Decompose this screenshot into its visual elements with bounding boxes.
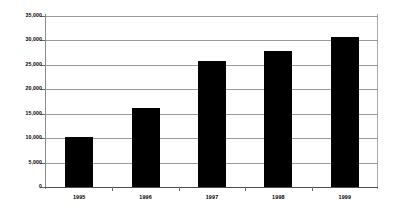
bar-1995 — [65, 137, 93, 187]
plot-area — [46, 16, 378, 187]
y-tick-label: 35,000 — [26, 13, 42, 18]
x-tick-label: 1997 — [182, 195, 242, 200]
y-tick-label: 20,000 — [26, 87, 42, 92]
bar-chart-figure: 05,00010,00015,00020,00025,00030,00035,0… — [0, 0, 397, 213]
x-tick-mark — [112, 187, 113, 191]
y-tick-label: 30,000 — [26, 38, 42, 43]
bar-1996 — [132, 108, 160, 187]
y-tick-label: 25,000 — [26, 62, 42, 67]
x-tick-mark — [179, 187, 180, 191]
bar-1998 — [264, 51, 292, 187]
x-tick-label: 1998 — [248, 195, 308, 200]
bar-1999 — [331, 37, 359, 187]
x-axis-line — [45, 187, 378, 188]
x-tick-mark — [312, 187, 313, 191]
y-tick-label: 5,000 — [29, 160, 42, 165]
x-tick-label: 1999 — [315, 195, 375, 200]
gridline — [46, 16, 378, 17]
bar-1997 — [198, 61, 226, 187]
x-tick-label: 1996 — [116, 195, 176, 200]
y-tick-label: 0 — [39, 184, 42, 189]
x-tick-label: 1995 — [49, 195, 109, 200]
x-tick-mark — [245, 187, 246, 191]
y-tick-label: 10,000 — [26, 136, 42, 141]
y-tick-label: 15,000 — [26, 111, 42, 116]
gridline — [46, 40, 378, 41]
